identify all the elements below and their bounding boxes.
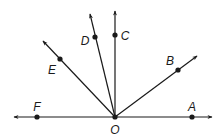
ray-oe [43, 41, 115, 117]
angle-diagram: O A B C D E F [0, 0, 224, 140]
point-label-d: D [81, 35, 90, 47]
point-b [175, 67, 180, 72]
point-e [57, 56, 62, 61]
vertex-point-o [112, 114, 117, 119]
point-a [189, 114, 194, 119]
point-label-f: F [33, 101, 40, 113]
point-c [112, 32, 117, 37]
point-label-e: E [48, 64, 56, 76]
ray-od [90, 14, 115, 117]
point-d [92, 34, 97, 39]
point-label-c: C [121, 30, 130, 42]
diagram-svg [0, 0, 224, 140]
point-label-b: B [166, 55, 174, 67]
vertex-label-o: O [110, 124, 119, 136]
point-f [34, 114, 39, 119]
ray-ob [115, 56, 197, 117]
point-label-a: A [188, 101, 196, 113]
